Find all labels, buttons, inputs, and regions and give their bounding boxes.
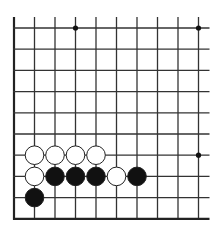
white-stone — [66, 146, 85, 165]
white-stone — [107, 167, 126, 186]
board-grid — [13, 17, 210, 220]
star-point-icon — [73, 25, 78, 30]
go-board[interactable] — [0, 0, 224, 232]
white-stone — [25, 146, 44, 165]
black-stone — [25, 188, 44, 207]
black-stone — [66, 167, 85, 186]
star-point-icon — [196, 153, 201, 158]
white-stone — [87, 146, 106, 165]
black-stone — [128, 167, 147, 186]
star-point-icon — [196, 25, 201, 30]
black-stone — [46, 167, 65, 186]
white-stone — [25, 167, 44, 186]
white-stone — [46, 146, 65, 165]
black-stone — [87, 167, 106, 186]
